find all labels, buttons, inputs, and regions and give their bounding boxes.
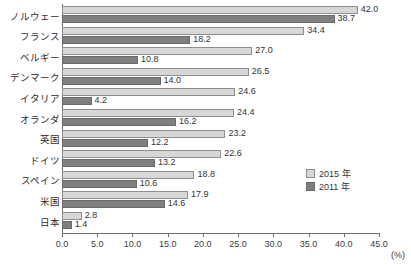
x-axis-line — [62, 233, 380, 234]
bar-value-label: 18.2 — [193, 34, 211, 44]
bar-value-label: 23.2 — [228, 128, 246, 138]
bar-value-label: 34.4 — [307, 25, 325, 35]
bar-value-label: 26.5 — [252, 66, 270, 76]
bar-value-label: 10.6 — [140, 178, 158, 188]
x-tick-mark — [132, 233, 133, 237]
x-tick-label: 15.0 — [159, 239, 177, 249]
x-tick-label: 5.0 — [91, 239, 104, 249]
x-tick-mark — [168, 233, 169, 237]
bar-2015[interactable] — [62, 88, 235, 96]
category-label: ノルウェー — [10, 9, 61, 23]
bar-2015[interactable] — [62, 150, 221, 158]
legend-swatch-2011 — [306, 182, 315, 191]
bar-value-label: 14.0 — [164, 75, 182, 85]
category-label: イタリア — [20, 91, 60, 105]
bar-2011[interactable] — [62, 180, 137, 188]
x-tick-mark — [379, 233, 380, 237]
bar-value-label: 16.2 — [179, 116, 197, 126]
x-axis-unit-label: (%) — [391, 250, 405, 260]
bar-value-label: 42.0 — [361, 4, 379, 14]
x-tick-label: 30.0 — [265, 239, 283, 249]
bar-2011[interactable] — [62, 118, 176, 126]
x-tick-label: 25.0 — [229, 239, 247, 249]
category-label: スペイン — [21, 173, 60, 187]
bar-value-label: 1.4 — [75, 219, 88, 229]
x-tick-mark — [62, 233, 63, 237]
category-label: ベルギー — [20, 50, 60, 64]
bar-2011[interactable] — [62, 15, 335, 23]
legend-item-2011[interactable]: 2011 年 — [306, 180, 351, 193]
bar-value-label: 18.8 — [197, 169, 215, 179]
x-tick-label: 20.0 — [194, 239, 212, 249]
bar-2011[interactable] — [62, 159, 155, 167]
x-tick-mark — [309, 233, 310, 237]
bar-value-label: 27.0 — [255, 45, 273, 55]
x-tick-mark — [238, 233, 239, 237]
category-label: ドイツ — [30, 153, 60, 167]
x-tick-mark — [344, 233, 345, 237]
bar-value-label: 12.2 — [151, 137, 169, 147]
bar-value-label: 4.2 — [95, 95, 108, 105]
x-tick-label: 45.0 — [370, 239, 388, 249]
x-tick-mark — [273, 233, 274, 237]
category-label: 米国 — [40, 194, 60, 208]
bar-2011[interactable] — [62, 97, 92, 105]
x-tick-label: 10.0 — [124, 239, 142, 249]
bar-2015[interactable] — [62, 130, 225, 138]
bar-value-label: 17.9 — [191, 189, 209, 199]
bar-value-label: 22.6 — [224, 148, 242, 158]
bar-2011[interactable] — [62, 56, 138, 64]
bar-value-label: 24.4 — [237, 107, 255, 117]
bar-2015[interactable] — [62, 6, 358, 14]
bar-chart: 0.05.010.015.020.025.030.035.040.045.0 ノ… — [0, 0, 411, 265]
legend-swatch-2015 — [306, 169, 315, 178]
bar-2015[interactable] — [62, 27, 304, 35]
bar-2011[interactable] — [62, 139, 148, 147]
bar-value-label: 24.6 — [238, 86, 256, 96]
bar-2011[interactable] — [62, 221, 72, 229]
x-tick-mark — [97, 233, 98, 237]
legend-label-2011: 2011 年 — [319, 180, 350, 193]
bar-value-label: 38.7 — [338, 13, 356, 23]
category-label: デンマーク — [10, 70, 61, 84]
x-tick-label: 40.0 — [335, 239, 353, 249]
legend-item-2015[interactable]: 2015 年 — [306, 167, 351, 180]
bar-2015[interactable] — [62, 171, 194, 179]
category-label: 日本 — [40, 215, 60, 229]
category-label: 英国 — [40, 132, 60, 146]
bar-2015[interactable] — [62, 68, 249, 76]
bar-2011[interactable] — [62, 36, 190, 44]
category-label: フランス — [20, 29, 60, 43]
bar-2015[interactable] — [62, 109, 234, 117]
x-tick-label: 35.0 — [300, 239, 318, 249]
legend-label-2015: 2015 年 — [319, 167, 351, 180]
bar-value-label: 10.8 — [141, 54, 159, 64]
category-label: オランダ — [20, 112, 60, 126]
x-tick-mark — [203, 233, 204, 237]
bar-value-label: 14.6 — [168, 198, 186, 208]
bar-2011[interactable] — [62, 200, 165, 208]
chart-legend: 2015 年 2011 年 — [306, 167, 351, 193]
bar-value-label: 13.2 — [158, 157, 176, 167]
x-tick-label: 0.0 — [56, 239, 69, 249]
bar-2011[interactable] — [62, 77, 161, 85]
